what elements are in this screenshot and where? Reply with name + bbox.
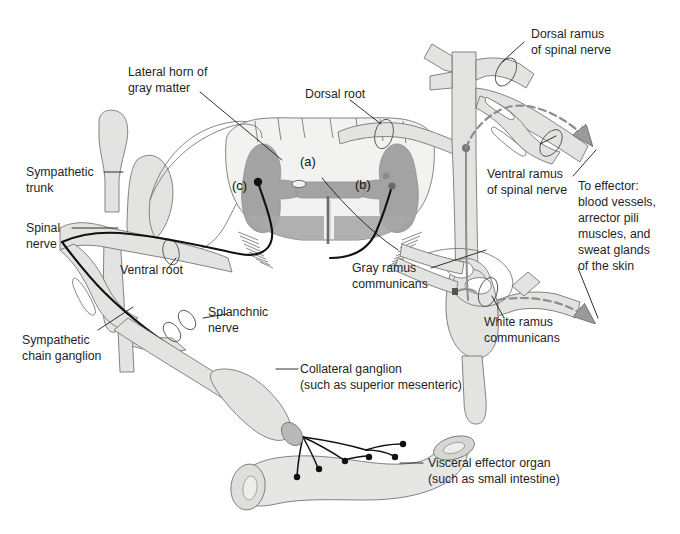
label-splanchnic-line2: nerve [208, 321, 239, 335]
label-dorsal-ramus-line1: Dorsal ramus [531, 27, 604, 41]
marker-b: (b) [355, 177, 371, 192]
central-canal [292, 180, 306, 187]
right-ganglion-stalk [462, 356, 486, 424]
label-to-effector-line5: sweat glands [578, 243, 650, 257]
cell-body-b2 [383, 173, 389, 179]
label-spinal-nerve-line1: Spinal [26, 221, 60, 235]
label-sympathetic-trunk-line2: trunk [26, 181, 54, 195]
label-chain-ganglion-line2: chain ganglion [22, 349, 101, 363]
label-ventral-ramus-line1: Ventral ramus [487, 167, 563, 181]
label-to-effector-line2: blood vessels, [578, 195, 656, 209]
label-to-effector-line4: muscles, and [578, 227, 651, 241]
label-lateral-horn-line1: Lateral horn of [128, 65, 208, 79]
label-collateral-line1: Collateral ganglion [300, 362, 402, 376]
label-white-ramus-line1: White ramus [484, 315, 553, 329]
ganglion-soma-marker [452, 288, 458, 295]
label-ventral-root: Ventral root [120, 263, 183, 277]
marker-c: (c) [232, 178, 247, 193]
label-to-effector-line3: arrector pili [578, 211, 639, 225]
anatomy-diagram-canvas: Lateral horn of gray matter Dorsal root … [0, 0, 680, 534]
sympathetic-pathways-figure: Lateral horn of gray matter Dorsal root … [0, 0, 680, 534]
label-white-ramus-line2: communicans [484, 331, 560, 345]
label-lateral-horn-line2: gray matter [128, 81, 190, 95]
label-spinal-nerve-line2: nerve [26, 237, 57, 251]
label-ventral-ramus-line2: of spinal nerve [487, 183, 567, 197]
cell-body-c [254, 178, 262, 186]
label-to-effector-line6: of the skin [578, 259, 634, 273]
label-gray-ramus-line2: communicans [352, 277, 428, 291]
label-chain-ganglion-line1: Sympathetic [22, 333, 90, 347]
label-to-effector-line1: To effector: [578, 179, 639, 193]
label-collateral-line2: (such as superior mesenteric) [300, 378, 462, 392]
label-dorsal-ramus-line2: of spinal nerve [531, 43, 611, 57]
label-dorsal-root: Dorsal root [305, 87, 366, 101]
label-sympathetic-trunk-line1: Sympathetic [26, 165, 94, 179]
label-splanchnic-line1: Splanchnic [208, 305, 268, 319]
marker-a: (a) [300, 154, 316, 169]
label-gray-ramus-line1: Gray ramus [352, 261, 416, 275]
cell-body-b [388, 182, 395, 189]
label-visceral-effector-line2: (such as small intestine) [428, 472, 560, 486]
label-visceral-effector-line1: Visceral effector organ [428, 456, 551, 470]
